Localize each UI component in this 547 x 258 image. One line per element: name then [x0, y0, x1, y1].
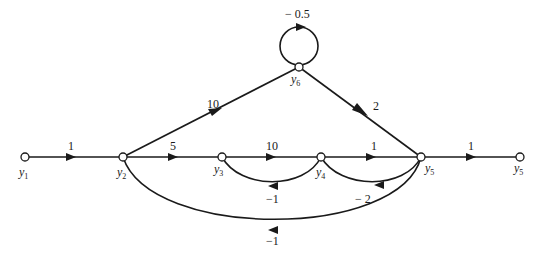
arrow-icon — [296, 23, 306, 31]
node-y3 — [218, 153, 226, 161]
signal-flow-graph: y1 y2 y3 y4 y5 y6 y5 1 5 10 1 1 10 2 − 0… — [0, 0, 547, 258]
node-label-y3: y3 — [213, 162, 223, 178]
arrow-icon — [352, 103, 368, 116]
arrow-icon — [268, 226, 278, 234]
edge-y5-y4 — [321, 157, 421, 182]
edge-y5-y2 — [123, 157, 421, 219]
gain-y5-y2: −1 — [266, 234, 279, 248]
gain-y2-y6: 10 — [207, 97, 219, 111]
node-y5-output — [516, 153, 524, 161]
node-label-y2: y2 — [116, 165, 126, 181]
gain-y2-y3: 5 — [170, 139, 176, 153]
arrow-icon — [168, 153, 178, 161]
arrow-icon — [366, 153, 376, 161]
node-label-y5-output: y5 — [513, 161, 523, 177]
node-y1 — [21, 153, 29, 161]
node-label-y4: y4 — [315, 165, 325, 181]
gain-y4-y5: 1 — [371, 139, 377, 153]
node-y4 — [317, 153, 325, 161]
node-y5 — [417, 153, 425, 161]
node-label-y1: y1 — [18, 165, 28, 181]
gain-y1-y2: 1 — [68, 139, 74, 153]
self-loop-y6 — [280, 27, 318, 65]
node-y2 — [119, 153, 127, 161]
node-label-y6: y6 — [290, 72, 300, 88]
arrow-icon — [266, 153, 276, 161]
edge-y4-y3 — [222, 157, 321, 182]
gain-self-loop-y6: − 0.5 — [285, 7, 310, 21]
arrow-icon — [268, 182, 278, 190]
node-y6 — [295, 63, 303, 71]
gain-y6-y5: 2 — [373, 99, 379, 113]
gain-y4-y3: −1 — [266, 192, 279, 206]
gain-y5-y4: − 2 — [355, 192, 371, 206]
gain-y3-y4: 10 — [266, 139, 278, 153]
arrow-icon — [466, 153, 476, 161]
gain-y5-out: 1 — [468, 139, 474, 153]
node-label-y5: y5 — [424, 161, 434, 177]
arrow-icon — [66, 153, 76, 161]
